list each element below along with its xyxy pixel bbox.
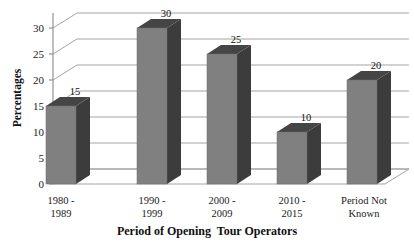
bar-value-label-1980-1989: 15	[60, 86, 90, 97]
x-tick-label-2010-2015: 2010 - 2015	[262, 194, 322, 220]
y-tick-label-30: 30	[22, 23, 44, 34]
bar-group-2000-2009	[207, 45, 251, 184]
bar-front-2010-2015	[277, 132, 307, 184]
y-tick-label-15: 15	[22, 101, 44, 112]
bar-front-period-not-known	[347, 80, 377, 184]
bar-side-2000-2009	[237, 45, 251, 184]
bar-front-1990-1999	[137, 28, 167, 184]
bar-group-1980-1989	[46, 97, 90, 184]
bar-group-2010-2015	[277, 123, 321, 184]
bar-value-label-1990-1999: 30	[151, 8, 181, 19]
bar-front-2000-2009	[207, 54, 237, 184]
bar-front-1980-1989	[46, 106, 76, 184]
x-tick-label-1980-1989: 1980 - 1989	[31, 194, 91, 220]
bar-value-label-2000-2009: 25	[221, 34, 251, 45]
bar-side-period-not-known	[377, 71, 391, 184]
x-tick-label-1990-1999: 1990 - 1999	[122, 194, 182, 220]
y-axis-title: Percentages	[11, 53, 23, 143]
bar-chart: 30 25 20 15 10 5 0 15 30 25 10 20 1980 -…	[0, 0, 414, 248]
bar-side-2010-2015	[307, 123, 321, 184]
x-tick-label-2000-2009: 2000 - 2009	[192, 194, 252, 220]
bar-side-1980-1989	[76, 97, 90, 184]
y-tick-label-0: 0	[22, 179, 44, 190]
bar-value-label-period-not-known: 20	[361, 60, 391, 71]
y-tick-label-25: 25	[22, 49, 44, 60]
y-tick-label-20: 20	[22, 75, 44, 86]
x-axis-title: Period of Opening Tour Operators	[0, 224, 414, 239]
y-tick-label-10: 10	[22, 127, 44, 138]
bar-side-1990-1999	[167, 19, 181, 184]
bar-group-period-not-known	[347, 71, 391, 184]
bar-value-label-2010-2015: 10	[291, 112, 321, 123]
gridline-30	[53, 13, 409, 28]
y-tick-label-5: 5	[22, 153, 44, 164]
x-tick-label-period-not-known: Period Not Known	[326, 194, 402, 220]
bar-group-1990-1999	[137, 19, 181, 184]
